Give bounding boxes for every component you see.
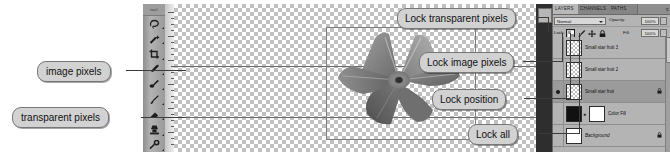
tab-paths[interactable]: PATHS xyxy=(609,4,638,14)
opacity-label: Opacity: xyxy=(609,17,625,22)
leader-lock-position xyxy=(524,98,571,99)
leader-lock-position-v xyxy=(570,33,571,98)
opacity-stepper[interactable] xyxy=(660,17,667,25)
leader-lock-image-v xyxy=(562,33,563,61)
opacity-input[interactable]: 100% xyxy=(641,17,659,25)
tools-palette-header: tool xyxy=(143,4,165,16)
blend-mode-select[interactable]: Normal xyxy=(554,17,606,25)
layer-name[interactable]: Small star fruit 2 xyxy=(585,67,618,72)
scrollbar-thumb[interactable] xyxy=(666,37,670,63)
brush-tool-icon[interactable] xyxy=(143,92,165,107)
leader-transparent-pixels xyxy=(141,117,186,118)
dodge-tool-icon[interactable] xyxy=(143,138,165,153)
tool-flyout-corner-icon xyxy=(162,27,164,29)
leader-image-pixels xyxy=(126,70,186,71)
layer-name[interactable]: Background xyxy=(585,133,610,138)
tab-channels[interactable]: CHANNELS xyxy=(578,4,613,14)
table-row[interactable]: ● Color Fill xyxy=(553,103,666,125)
star-fruit-artwork xyxy=(329,28,474,134)
table-row[interactable]: Background xyxy=(553,125,666,147)
screenshot-root: tool xyxy=(0,0,670,161)
leader-lock-all xyxy=(538,133,580,134)
clone-stamp-tool-icon[interactable] xyxy=(143,122,165,137)
leader-lock-image xyxy=(523,61,563,62)
layer-visibility-toggle[interactable] xyxy=(553,103,564,124)
callout-lock-position: Lock position xyxy=(432,89,506,110)
callout-lock-all: Lock all xyxy=(468,124,518,145)
layer-list-scrollbar[interactable] xyxy=(665,37,670,152)
panel-tab-strip[interactable]: LAYERS CHANNELS PATHS ≡ xyxy=(553,4,670,15)
lock-icon xyxy=(657,88,662,94)
tool-flyout-corner-icon xyxy=(162,134,164,136)
fill-input[interactable]: 100% xyxy=(641,29,659,37)
callout-lock-image-pixels: Lock image pixels xyxy=(419,52,514,73)
link-icon[interactable]: ● xyxy=(582,111,587,117)
layer-name[interactable]: Small star fruit xyxy=(585,89,614,94)
layer-name[interactable]: Color Fill xyxy=(608,111,626,116)
tools-palette[interactable]: tool xyxy=(143,4,166,152)
tool-flyout-corner-icon xyxy=(162,118,164,120)
tool-flyout-corner-icon xyxy=(162,88,164,90)
layer-name[interactable]: Small star fruit 3 xyxy=(585,45,618,50)
layer-visibility-toggle[interactable] xyxy=(553,59,564,80)
collapsed-panel-dock[interactable] xyxy=(536,4,552,152)
layer-visibility-toggle[interactable] xyxy=(553,125,564,146)
eraser-tool-icon[interactable] xyxy=(143,107,165,122)
crop-tool-icon[interactable] xyxy=(143,46,165,61)
callout-lock-transparent-pixels: Lock transparent pixels xyxy=(397,8,516,29)
tool-flyout-corner-icon xyxy=(162,58,164,60)
panel-menu-icon[interactable]: ≡ xyxy=(666,6,669,12)
dock-panel-icon[interactable] xyxy=(538,8,552,23)
leader-lock-transparent-v xyxy=(548,17,549,33)
blend-mode-value: Normal xyxy=(557,19,571,24)
leader-lock-transparent xyxy=(536,17,548,18)
lock-icon xyxy=(657,132,662,138)
leader-lock-all-v xyxy=(579,33,580,133)
lasso-tool-icon[interactable] xyxy=(143,16,165,31)
tool-flyout-corner-icon xyxy=(162,73,164,75)
chevron-down-icon xyxy=(599,21,603,23)
callout-image-pixels: image pixels xyxy=(37,61,111,82)
blend-mode-row: Normal Opacity: 100% xyxy=(553,15,670,27)
tool-flyout-corner-icon xyxy=(162,42,164,44)
fill-stepper[interactable] xyxy=(660,29,667,37)
fill-label: Fill: xyxy=(623,30,630,35)
tool-flyout-corner-icon xyxy=(162,103,164,105)
healing-brush-tool-icon[interactable] xyxy=(143,77,165,92)
magic-wand-tool-icon[interactable] xyxy=(143,31,165,46)
eye-icon[interactable] xyxy=(556,90,560,94)
layer-mask-thumbnail[interactable] xyxy=(589,106,605,122)
tool-flyout-corner-icon xyxy=(162,149,164,151)
callout-transparent-pixels: transparent pixels xyxy=(12,107,109,128)
